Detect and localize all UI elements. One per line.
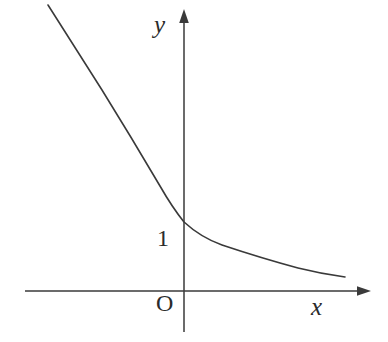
- y-axis-arrow-icon: [179, 9, 189, 23]
- exponential-decay-curve: [48, 5, 345, 277]
- y-axis-label: y: [154, 12, 165, 37]
- x-axis-arrow-icon: [357, 286, 371, 296]
- exponential-decay-figure: y x 1 O: [0, 0, 388, 342]
- x-axis-label: x: [311, 294, 322, 319]
- origin-label: O: [156, 291, 173, 315]
- figure-canvas: [0, 0, 388, 342]
- y-intercept-tick-label: 1: [157, 226, 169, 250]
